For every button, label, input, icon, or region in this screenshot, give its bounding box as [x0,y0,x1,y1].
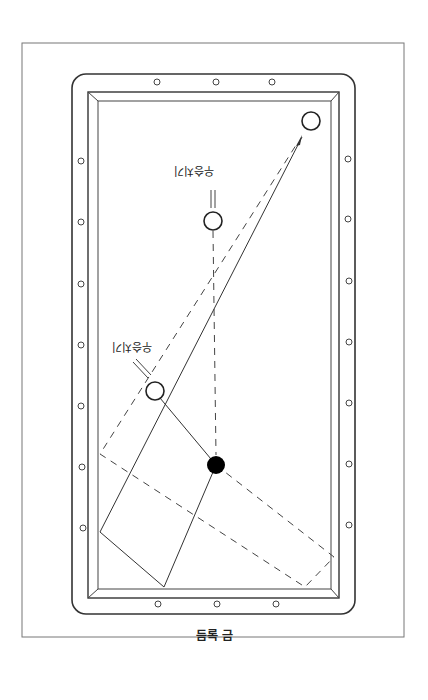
ball-label-top: 우승치기 [174,164,214,180]
billiard-diagram [0,0,428,700]
figure-caption: 듬록 금 [196,626,233,643]
object-ball-left [146,382,164,400]
target-ball [302,112,320,130]
cue-ball [207,456,225,474]
ball-label-left: 우승치기 [112,340,152,356]
arrow-head-icon [296,135,302,146]
object-ball-top [204,212,222,230]
